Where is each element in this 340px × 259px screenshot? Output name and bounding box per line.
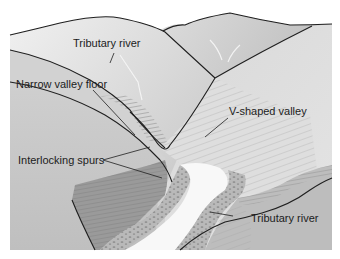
label-tributary-river-bottom: Tributary river [251,212,319,224]
label-interlocking-spurs: Interlocking spurs [18,154,105,166]
valley-diagram: Tributary river Narrow valley floor V-sh… [0,0,340,259]
valley-illustration: Tributary river Narrow valley floor V-sh… [0,0,340,259]
label-narrow-valley-floor: Narrow valley floor [16,78,107,90]
label-tributary-river-top: Tributary river [73,37,141,49]
label-v-shaped-valley: V-shaped valley [229,105,307,117]
